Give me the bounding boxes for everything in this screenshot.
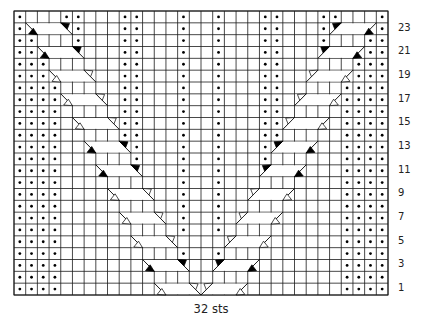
purl-stitch-dot: [369, 288, 372, 291]
purl-stitch-dot: [381, 181, 384, 184]
purl-stitch-dot: [42, 193, 45, 196]
purl-stitch-dot: [217, 169, 220, 172]
purl-stitch-dot: [369, 39, 372, 42]
purl-stitch-dot: [135, 51, 138, 54]
purl-stitch-dot: [369, 169, 372, 172]
purl-stitch-dot: [135, 98, 138, 101]
purl-stitch-dot: [54, 276, 57, 279]
purl-stitch-dot: [346, 169, 349, 172]
purl-stitch-dot: [217, 27, 220, 30]
purl-stitch-dot: [30, 217, 33, 220]
purl-stitch-dot: [346, 205, 349, 208]
purl-stitch-dot: [217, 134, 220, 137]
purl-stitch-dot: [381, 158, 384, 161]
purl-stitch-dot: [357, 87, 360, 90]
purl-stitch-dot: [182, 134, 185, 137]
purl-stitch-dot: [369, 98, 372, 101]
purl-stitch-dot: [30, 75, 33, 78]
purl-stitch-dot: [381, 264, 384, 267]
purl-stitch-dot: [381, 75, 384, 78]
purl-stitch-dot: [276, 110, 279, 113]
purl-stitch-dot: [357, 134, 360, 137]
purl-stitch-dot: [357, 217, 360, 220]
purl-stitch-dot: [124, 27, 127, 30]
purl-stitch-dot: [346, 252, 349, 255]
purl-stitch-dot: [346, 240, 349, 243]
purl-stitch-dot: [18, 158, 21, 161]
purl-stitch-dot: [357, 252, 360, 255]
purl-stitch-dot: [54, 264, 57, 267]
purl-stitch-dot: [369, 193, 372, 196]
purl-stitch-dot: [369, 252, 372, 255]
purl-stitch-dot: [42, 158, 45, 161]
purl-stitch-dot: [346, 134, 349, 137]
purl-stitch-dot: [54, 252, 57, 255]
purl-stitch-dot: [30, 193, 33, 196]
purl-stitch-dot: [357, 181, 360, 184]
purl-stitch-dot: [357, 63, 360, 66]
purl-stitch-dot: [42, 240, 45, 243]
purl-stitch-dot: [369, 63, 372, 66]
row-label: 5: [398, 235, 404, 246]
purl-stitch-dot: [369, 240, 372, 243]
purl-stitch-dot: [217, 205, 220, 208]
purl-stitch-dot: [77, 39, 80, 42]
purl-stitch-dot: [54, 134, 57, 137]
purl-stitch-dot: [322, 39, 325, 42]
purl-stitch-dot: [42, 169, 45, 172]
purl-stitch-dot: [357, 229, 360, 232]
purl-stitch-dot: [357, 110, 360, 113]
purl-stitch-dot: [182, 87, 185, 90]
purl-stitch-dot: [30, 252, 33, 255]
purl-stitch-dot: [381, 51, 384, 54]
purl-stitch-dot: [369, 110, 372, 113]
purl-stitch-dot: [18, 110, 21, 113]
purl-stitch-dot: [346, 276, 349, 279]
row-label: 15: [398, 116, 411, 127]
purl-stitch-dot: [124, 87, 127, 90]
row-label: 19: [398, 69, 411, 80]
purl-stitch-dot: [369, 134, 372, 137]
purl-stitch-dot: [357, 288, 360, 291]
purl-stitch-dot: [42, 264, 45, 267]
purl-stitch-dot: [217, 158, 220, 161]
purl-stitch-dot: [18, 63, 21, 66]
purl-stitch-dot: [135, 122, 138, 125]
purl-stitch-dot: [18, 217, 21, 220]
purl-stitch-dot: [18, 181, 21, 184]
purl-stitch-dot: [30, 158, 33, 161]
purl-stitch-dot: [264, 122, 267, 125]
purl-stitch-dot: [42, 205, 45, 208]
row-label: 11: [398, 164, 411, 175]
purl-stitch-dot: [381, 288, 384, 291]
purl-stitch-dot: [182, 98, 185, 101]
purl-stitch-dot: [135, 63, 138, 66]
purl-stitch-dot: [357, 158, 360, 161]
row-label: 13: [398, 140, 411, 151]
purl-stitch-dot: [30, 146, 33, 149]
purl-stitch-dot: [346, 122, 349, 125]
purl-stitch-dot: [30, 169, 33, 172]
purl-stitch-dot: [357, 264, 360, 267]
purl-stitch-dot: [18, 98, 21, 101]
purl-stitch-dot: [30, 122, 33, 125]
purl-stitch-dot: [357, 146, 360, 149]
purl-stitch-dot: [264, 146, 267, 149]
purl-stitch-dot: [182, 110, 185, 113]
purl-stitch-dot: [381, 240, 384, 243]
purl-stitch-dot: [30, 87, 33, 90]
purl-stitch-dot: [369, 51, 372, 54]
purl-stitch-dot: [42, 122, 45, 125]
purl-stitch-dot: [264, 134, 267, 137]
purl-stitch-dot: [54, 98, 57, 101]
purl-stitch-dot: [124, 75, 127, 78]
purl-stitch-dot: [18, 75, 21, 78]
purl-stitch-dot: [217, 51, 220, 54]
purl-stitch-dot: [18, 134, 21, 137]
purl-stitch-dot: [334, 16, 337, 19]
purl-stitch-dot: [346, 264, 349, 267]
purl-stitch-dot: [217, 39, 220, 42]
purl-stitch-dot: [346, 288, 349, 291]
purl-stitch-dot: [369, 122, 372, 125]
purl-stitch-dot: [346, 181, 349, 184]
